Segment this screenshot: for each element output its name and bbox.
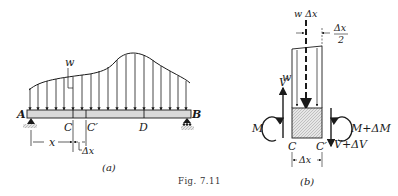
label-b: B [191,108,201,121]
label-c-prime: C′ [87,121,98,134]
sublabel-b: (b) [300,176,314,187]
load-arrows [30,54,186,110]
dim-dx-label: Δx [81,145,95,156]
panel-a: w A B C C′ D [16,53,201,173]
label-d: D [138,121,148,134]
half-dx-dimension [296,28,330,46]
moment-m-arrow [262,117,276,141]
panel-b: w Δx Δx 2 w V M V+ΔV M+ΔM C C′ [251,8,391,187]
load-leader-line [68,68,73,88]
dimension-x [31,120,86,152]
moment-m-dm-label: M+ΔM [350,122,391,135]
resultant-label: w Δx [294,8,318,19]
moment-m-label: M [251,122,264,135]
figure-7-11: w A B C C′ D [0,0,398,196]
half-dx-numerator: Δx [333,22,347,33]
dim-x-label: x [49,136,56,149]
label-c-prime-b: C′ [316,140,327,153]
beam-element [292,108,322,138]
distributed-load-curve [29,53,190,90]
figure-caption: Fig. 7.11 [178,176,221,186]
sublabel-a: (a) [102,162,116,173]
element-dx-label: Δx [298,154,312,165]
label-c-b: C [288,140,297,153]
half-dx-denominator: 2 [337,34,344,45]
label-a: A [16,108,26,121]
label-c: C [64,121,73,134]
shear-v-label: V [279,76,288,89]
load-label-w: w [65,56,75,69]
beam [27,110,191,118]
